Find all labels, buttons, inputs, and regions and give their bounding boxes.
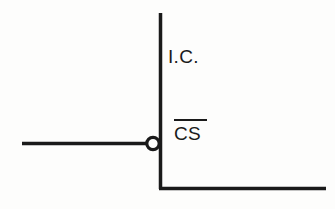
ic-label: I.C. [168, 46, 199, 68]
inversion-bubble-icon [147, 137, 159, 149]
logic-diagram [0, 0, 335, 209]
overbar-active-low-icon [174, 119, 207, 121]
chip-select-label-group: CS [174, 119, 207, 144]
diagram-canvas: I.C. CS [0, 0, 335, 209]
chip-select-label: CS [174, 123, 207, 144]
